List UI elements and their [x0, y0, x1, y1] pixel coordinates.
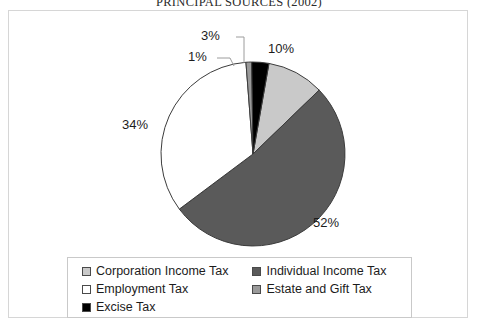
- legend-row: Excise Tax: [82, 298, 411, 316]
- slice-label-estate: 1%: [188, 49, 207, 64]
- slice-label-corporation: 10%: [268, 41, 294, 56]
- legend-label: Corporation Income Tax: [96, 264, 228, 278]
- legend-item-individual-income-tax[interactable]: Individual Income Tax: [252, 262, 411, 280]
- chart-title: PRINCIPAL SOURCES (2002): [0, 0, 478, 8]
- slice-label-excise: 3%: [201, 28, 220, 43]
- pie-svg: [8, 10, 468, 258]
- legend-swatch-individual-icon: [252, 267, 261, 276]
- legend-swatch-estate-icon: [252, 285, 261, 294]
- legend-label: Excise Tax: [96, 300, 156, 314]
- legend-item-estate-and-gift-tax[interactable]: Estate and Gift Tax: [252, 280, 411, 298]
- legend-row: Employment TaxEstate and Gift Tax: [82, 280, 411, 298]
- legend-item-corporation-income-tax[interactable]: Corporation Income Tax: [82, 262, 252, 280]
- legend-label: Individual Income Tax: [266, 264, 386, 278]
- leader-line-excise: [236, 37, 244, 63]
- legend-label: Employment Tax: [96, 282, 188, 296]
- pie-chart-figure: PRINCIPAL SOURCES (2002) 10% 52% 34% 1% …: [0, 0, 478, 330]
- legend-item-empty: [252, 298, 411, 316]
- legend-swatch-corporation-icon: [82, 267, 91, 276]
- legend-swatch-employment-icon: [82, 285, 91, 294]
- slice-label-individual: 52%: [313, 215, 339, 230]
- legend-swatch-excise-icon: [82, 303, 91, 312]
- legend-label: Estate and Gift Tax: [266, 282, 371, 296]
- legend: Corporation Income TaxIndividual Income …: [67, 257, 412, 318]
- legend-item-excise-tax[interactable]: Excise Tax: [82, 298, 252, 316]
- legend-grid: Corporation Income TaxIndividual Income …: [68, 258, 411, 317]
- legend-row: Corporation Income TaxIndividual Income …: [82, 262, 411, 280]
- pie-plot-area: [8, 10, 468, 258]
- legend-item-employment-tax[interactable]: Employment Tax: [82, 280, 252, 298]
- slice-label-employment: 34%: [122, 117, 148, 132]
- leader-line-group: [217, 37, 244, 66]
